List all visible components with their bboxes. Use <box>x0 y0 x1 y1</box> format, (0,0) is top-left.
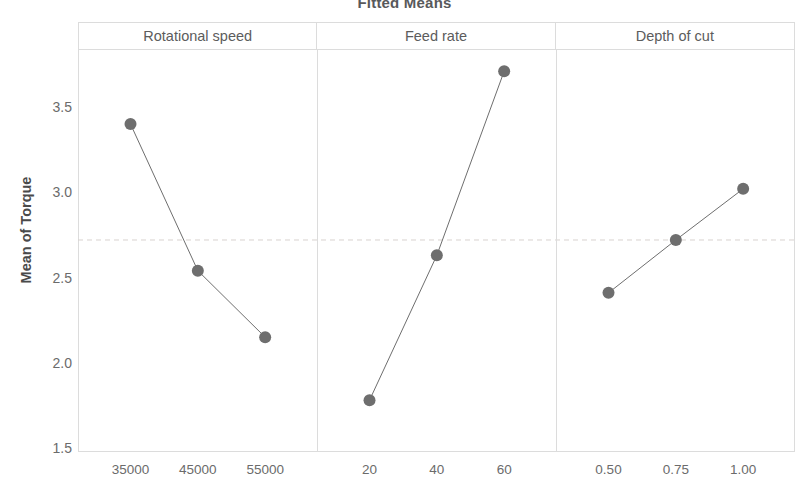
panel-divider <box>556 50 557 452</box>
x-axis-tick-label: 45000 <box>179 462 217 477</box>
x-axis-tick-label: 35000 <box>112 462 150 477</box>
x-axis-tick-label: 60 <box>497 462 512 477</box>
y-axis-tick-labels: 1.52.02.53.03.5 <box>28 0 72 502</box>
main-effects-plot: Fitted Means Mean of Torque 1.52.02.53.0… <box>0 0 809 502</box>
panel-header-depth-of-cut: Depth of cut <box>556 23 794 49</box>
x-axis-tick-label: 40 <box>429 462 444 477</box>
y-axis-tick-label: 3.0 <box>32 185 72 199</box>
y-axis-tick-label: 2.0 <box>32 356 72 370</box>
panel-header-label: Feed rate <box>405 28 467 44</box>
y-axis-tick-label: 1.5 <box>32 441 72 455</box>
panel-header-band: Rotational speedFeed rateDepth of cut <box>78 22 795 50</box>
x-axis-tick-label: 1.00 <box>730 462 756 477</box>
x-axis-tick-label: 20 <box>362 462 377 477</box>
chart-title: Fitted Means <box>0 0 809 11</box>
x-axis-tick-label: 55000 <box>246 462 284 477</box>
panel-header-feed-rate: Feed rate <box>317 23 555 49</box>
panel-header-rotational-speed: Rotational speed <box>79 23 317 49</box>
y-axis-tick-label: 3.5 <box>32 100 72 114</box>
panel-header-label: Depth of cut <box>636 28 714 44</box>
plot-frame <box>78 50 795 452</box>
panel-header-label: Rotational speed <box>143 28 252 44</box>
x-axis-tick-label: 0.50 <box>595 462 621 477</box>
panel-divider <box>317 50 318 452</box>
y-axis-tick-label: 2.5 <box>32 271 72 285</box>
x-axis-tick-label: 0.75 <box>663 462 689 477</box>
